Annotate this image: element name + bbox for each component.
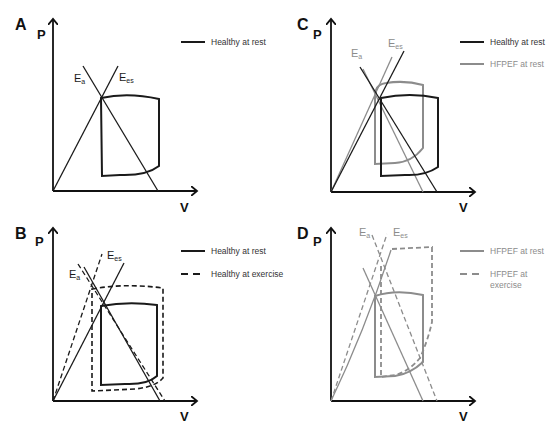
x-axis-label-v: V bbox=[180, 200, 189, 215]
y-axis-label-p: P bbox=[35, 234, 44, 249]
x-axis-label-v: V bbox=[459, 409, 468, 424]
pv-loop-healthy-rest bbox=[101, 95, 159, 176]
ea-label: Ea bbox=[351, 47, 362, 60]
legend-label-exercise: Healthy at exercise bbox=[211, 269, 284, 279]
legend: Healthy at rest Healthy at exercise bbox=[181, 246, 284, 279]
legend-label-rest: Healthy at rest bbox=[211, 246, 266, 256]
pv-loop-hfpef-exercise bbox=[381, 247, 432, 377]
legend-label-rest: HFPEF at rest bbox=[490, 246, 544, 256]
legend: Healthy at rest HFPEF at rest bbox=[460, 37, 545, 69]
ea-label: Ea bbox=[69, 268, 80, 281]
ees-label: Ees bbox=[393, 226, 408, 239]
panel-c: C P V Ea Ees Healthy at rest HFPEF at re… bbox=[297, 16, 545, 215]
legend: Healthy at rest bbox=[181, 37, 266, 47]
pv-loop-healthy-rest bbox=[101, 303, 157, 385]
panel-letter-a: A bbox=[15, 16, 27, 33]
legend-label-healthy: Healthy at rest bbox=[490, 37, 545, 47]
ees-label: Ees bbox=[388, 37, 403, 50]
ees-line-healthy-rest bbox=[53, 263, 124, 401]
ea-label: Ea bbox=[74, 72, 85, 85]
panel-a: A P V Ea Ees Healthy at rest bbox=[15, 16, 266, 215]
panel-letter-d: D bbox=[297, 225, 309, 242]
ea-label: Ea bbox=[359, 226, 370, 239]
panel-letter-b: B bbox=[15, 225, 27, 242]
ees-curve-hfpef-rest bbox=[331, 250, 391, 401]
panel-letter-c: C bbox=[297, 16, 309, 33]
x-axis-label-v: V bbox=[459, 200, 468, 215]
panel-d: D P V Ea Ees HFPEF at rest HFPEF at exer… bbox=[297, 225, 544, 424]
legend-label-exercise-line2: exercise bbox=[490, 280, 522, 290]
legend: HFPEF at rest HFPEF at exercise bbox=[460, 246, 544, 290]
axes bbox=[53, 229, 196, 401]
ees-line-hfpef-rest bbox=[331, 57, 392, 192]
panel-b: B P V Ea Ees Healthy at rest Healthy at … bbox=[15, 225, 284, 424]
legend-label: Healthy at rest bbox=[211, 37, 266, 47]
ees-line-healthy-rest bbox=[53, 66, 118, 191]
axes bbox=[53, 20, 196, 191]
y-axis-label-p: P bbox=[313, 234, 322, 249]
ees-label: Ees bbox=[107, 249, 122, 262]
pv-loop-figure: A P V Ea Ees Healthy at rest C P V bbox=[0, 0, 559, 428]
y-axis-label-p: P bbox=[37, 27, 46, 42]
ees-label: Ees bbox=[119, 71, 134, 84]
pv-loop-healthy-exercise bbox=[92, 286, 163, 391]
x-axis-label-v: V bbox=[180, 409, 189, 424]
y-axis-label-p: P bbox=[313, 27, 322, 42]
legend-label-hfpef: HFPEF at rest bbox=[490, 59, 544, 69]
legend-label-exercise: HFPEF at bbox=[490, 269, 528, 279]
